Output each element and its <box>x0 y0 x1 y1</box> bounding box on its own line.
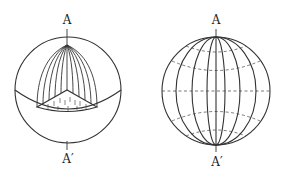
right-sphere: A A′ <box>162 13 270 169</box>
left-label-bottom: A′ <box>61 152 74 166</box>
left-sphere: A A′ <box>15 13 121 166</box>
left-meridian-fan <box>37 45 97 107</box>
right-meridians <box>176 37 256 145</box>
left-label-top: A <box>62 13 72 27</box>
left-base-triangle <box>37 90 97 112</box>
right-label-bottom: A′ <box>210 155 223 169</box>
diagram-canvas: A A′ A A′ <box>0 0 287 180</box>
right-label-top: A <box>211 13 221 27</box>
